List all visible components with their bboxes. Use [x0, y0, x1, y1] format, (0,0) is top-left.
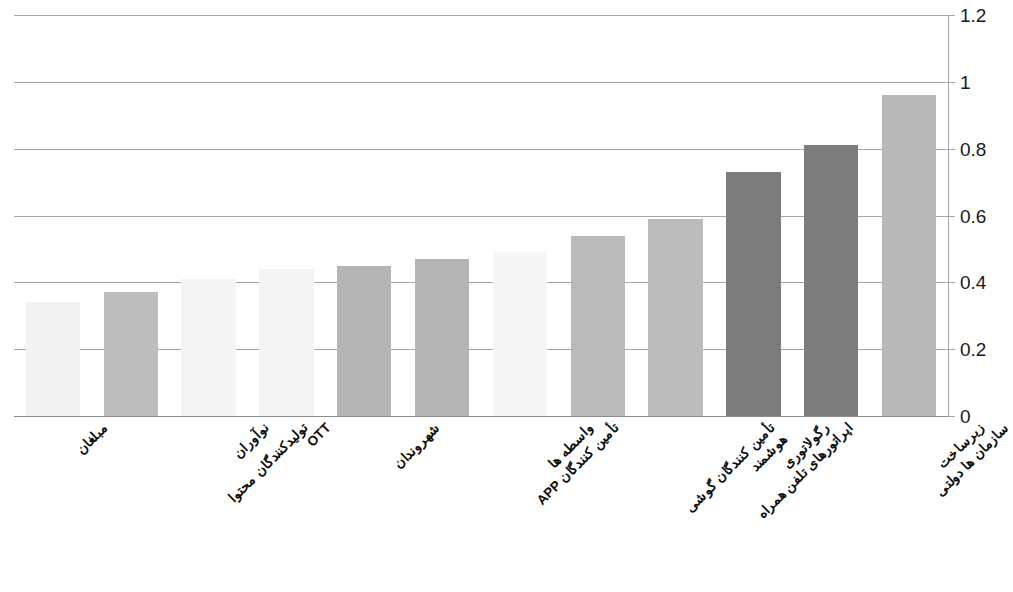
- bar: [804, 145, 858, 416]
- bar: [415, 259, 469, 416]
- bars-layer: [14, 15, 948, 416]
- bar: [648, 219, 702, 416]
- x-axis-label: تأمین کنندگان گوشی هوشمند: [654, 420, 791, 557]
- y-axis-label-0-8: 0.8: [960, 139, 986, 158]
- x-axis-label: مبلغان: [73, 420, 112, 459]
- y-tick-1-2: [948, 15, 955, 16]
- bar: [882, 95, 936, 416]
- x-axis-label: شهروندان: [391, 420, 444, 473]
- y-tick-0-6: [948, 216, 955, 217]
- y-tick-0-2: [948, 349, 955, 350]
- x-axis-label: تأمین کنندگان APP: [498, 420, 623, 545]
- y-axis-label-0-6: 0.6: [960, 206, 986, 225]
- y-tick-1-0: [948, 82, 955, 83]
- x-axis-line: [14, 416, 948, 417]
- x-axis-label: OTT: [304, 420, 335, 451]
- bar: [726, 172, 780, 416]
- y-axis-label-0: 0: [960, 407, 971, 426]
- bar: [104, 292, 158, 416]
- y-axis-label-0-2: 0.2: [960, 340, 986, 359]
- y-axis-label-0-4: 0.4: [960, 273, 986, 292]
- bar: [337, 266, 391, 416]
- y-tick-0: [948, 416, 955, 417]
- x-axis-label: سازمان ها دولتی: [887, 420, 1012, 545]
- bar: [259, 269, 313, 416]
- bar: [26, 302, 80, 416]
- y-axis-label-1-0: 1: [960, 72, 971, 91]
- y-tick-0-8: [948, 149, 955, 150]
- bar: [181, 279, 235, 416]
- y-axis-label-1-2: 1.2: [960, 6, 986, 25]
- y-tick-0-4: [948, 282, 955, 283]
- bar: [571, 236, 625, 416]
- bar: [493, 252, 547, 416]
- x-axis-labels: مبلغانتولیدکنندگان محتوانوآورانOTTشهروند…: [14, 420, 948, 592]
